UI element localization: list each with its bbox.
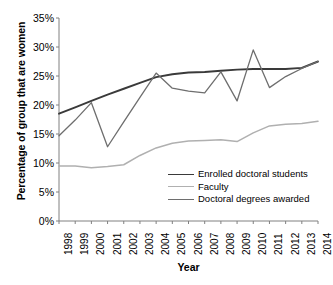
legend-color-swatch bbox=[168, 174, 194, 175]
chart-legend: Enrolled doctoral studentsFacultyDoctora… bbox=[168, 168, 309, 206]
legend-item: Doctoral degrees awarded bbox=[168, 193, 309, 206]
series-line bbox=[59, 121, 318, 167]
legend-label: Faculty bbox=[198, 181, 229, 194]
legend-label: Enrolled doctoral students bbox=[198, 168, 308, 181]
legend-color-swatch bbox=[168, 186, 194, 187]
plot-area bbox=[0, 0, 333, 285]
chart-container: Percentage of group that are women Year … bbox=[0, 0, 333, 285]
legend-item: Faculty bbox=[168, 181, 309, 194]
legend-item: Enrolled doctoral students bbox=[168, 168, 309, 181]
series-line bbox=[59, 62, 318, 114]
legend-color-swatch bbox=[168, 199, 194, 200]
legend-label: Doctoral degrees awarded bbox=[198, 193, 309, 206]
